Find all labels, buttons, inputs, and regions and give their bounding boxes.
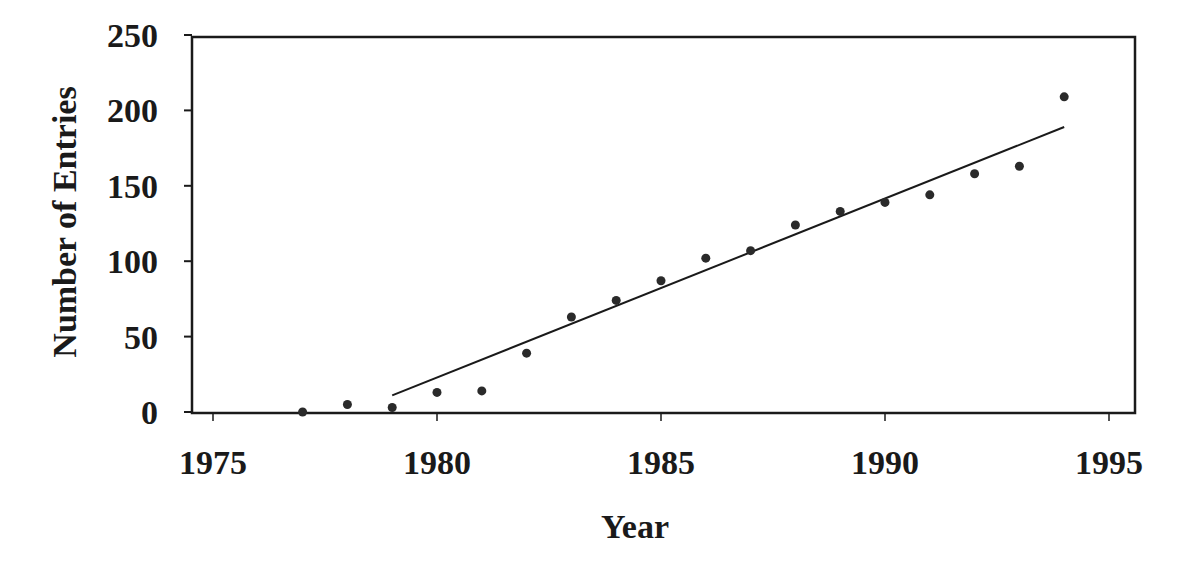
data-point xyxy=(388,403,397,412)
data-point xyxy=(612,296,621,305)
x-tick-label: 1995 xyxy=(1075,444,1143,481)
data-point xyxy=(433,388,442,397)
data-point xyxy=(343,400,352,409)
data-point xyxy=(567,312,576,321)
data-point xyxy=(925,190,934,199)
y-tick-label: 250 xyxy=(107,17,158,54)
data-point xyxy=(836,207,845,216)
data-points xyxy=(298,92,1069,416)
x-tick-label: 1975 xyxy=(179,444,247,481)
x-tick-label: 1980 xyxy=(403,444,471,481)
y-axis-title: Number of Entries xyxy=(46,86,83,357)
y-tick-label: 150 xyxy=(107,168,158,205)
data-point xyxy=(522,349,531,358)
y-tick-label: 200 xyxy=(107,92,158,129)
chart-canvas: 050100150200250 19751980198519901995 Yea… xyxy=(0,0,1184,570)
data-point xyxy=(701,254,710,263)
linear-fit-line xyxy=(392,127,1064,395)
chart: 050100150200250 19751980198519901995 Yea… xyxy=(0,0,1184,570)
y-tick-label: 100 xyxy=(107,243,158,280)
data-point xyxy=(657,276,666,285)
trend-line xyxy=(392,127,1064,395)
data-point xyxy=(1060,92,1069,101)
data-point xyxy=(791,221,800,230)
data-point xyxy=(881,198,890,207)
y-tick-label: 50 xyxy=(124,319,158,356)
data-point xyxy=(1015,162,1024,171)
y-axis: 050100150200250 xyxy=(107,17,192,431)
data-point xyxy=(298,408,307,417)
y-tick-label: 0 xyxy=(141,394,158,431)
data-point xyxy=(970,169,979,178)
x-tick-label: 1985 xyxy=(627,444,695,481)
plot-border xyxy=(192,37,1135,413)
x-tick-label: 1990 xyxy=(851,444,919,481)
x-axis-title: Year xyxy=(601,508,669,545)
x-axis: 19751980198519901995 xyxy=(179,413,1143,481)
plot-frame xyxy=(192,37,1135,413)
data-point xyxy=(746,246,755,255)
data-point xyxy=(477,386,486,395)
